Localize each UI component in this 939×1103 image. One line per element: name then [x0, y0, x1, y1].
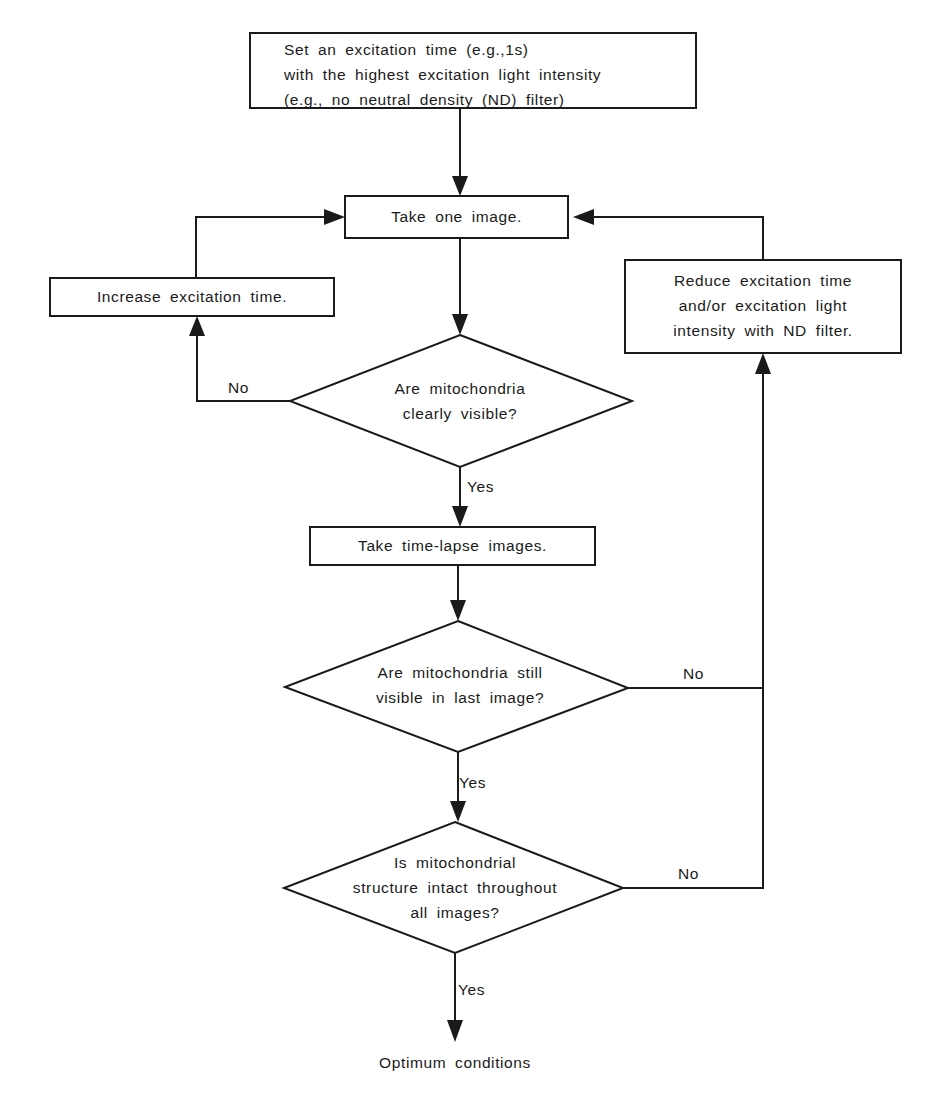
start-box-text: Set an excitation time (e.g.,1s) with th… — [250, 33, 696, 112]
take-timelapse-text: Take time-lapse images. — [310, 533, 595, 558]
yes-label-1: Yes — [467, 474, 494, 499]
yes-label-3: Yes — [458, 977, 485, 1002]
decision-still-visible-text: Are mitochondria still visible in last i… — [330, 660, 590, 710]
no-label-1: No — [228, 375, 249, 400]
no-label-3: No — [678, 861, 699, 886]
reduce-time-text: Reduce excitation time and/or excitation… — [625, 268, 901, 343]
decision-intact-text: Is mitochondrial structure intact throug… — [300, 850, 610, 925]
increase-time-text: Increase excitation time. — [50, 284, 334, 309]
no-label-2: No — [683, 661, 704, 686]
yes-label-2: Yes — [459, 770, 486, 795]
end-text: Optimum conditions — [330, 1050, 580, 1075]
decision-visible-text: Are mitochondria clearly visible? — [330, 376, 590, 426]
take-one-image-text: Take one image. — [345, 204, 568, 229]
